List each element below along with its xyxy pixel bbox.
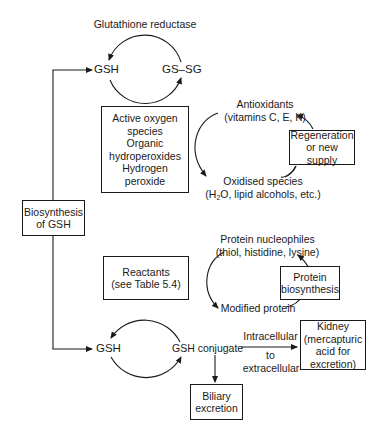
extracellular-label: extracellular [241,362,301,375]
regeneration-line2: or new supply [290,141,354,166]
antioxidants-label-line1: Antioxidants [210,98,320,111]
oxidant-line: Active oxygen [112,112,177,125]
h2o-prefix: (H [205,188,216,200]
oxidant-line: peroxide [125,175,165,188]
reactants-line2: (see Table 5.4) [111,278,180,291]
antioxidants-label-line2: (vitamins C, E, K) [210,111,320,124]
gsh-top-node: GSH [94,63,124,76]
biliary-line1: Biliary [202,390,231,403]
protein-biosynthesis-line1: Protein [293,271,326,284]
protein-biosynthesis-line2: biosynthesis [281,283,339,296]
oxidant-species-box: Active oxygen species Organic hydroperox… [101,106,189,193]
protein-nucleophiles-label: Protein nucleophiles (thiol, histidine, … [205,233,330,258]
oxidant-line: Hydrogen [122,162,168,175]
glutathione-reductase-label: Glutathione reductase [90,18,200,31]
protein-nucleophiles-line1: Protein nucleophiles [205,233,330,246]
biliary-excretion-box: Biliary excretion [190,384,243,420]
protein-nucleophiles-line2: (thiol, histidine, lysine) [205,246,330,259]
biosynthesis-line1: Biosynthesis [24,206,83,219]
oxidant-line: hydroperoxides [109,150,181,163]
biliary-line2: excretion [195,402,238,415]
oxidised-species-label: Oxidised species (H2O, lipid alcohols, e… [198,175,328,200]
to-label: to [243,349,298,362]
intracellular-label: Intracellular [243,330,298,343]
kidney-line: excretion) [310,358,356,371]
biosynthesis-box: Biosynthesis of GSH [22,200,85,236]
kidney-line: Kidney [317,320,349,333]
antioxidants-label: Antioxidants (vitamins C, E, K) [210,98,320,123]
oxidised-species-line1: Oxidised species [198,175,328,188]
reactants-box: Reactants (see Table 5.4) [103,256,189,300]
gssg-node: GS–SG [162,63,202,76]
kidney-line: (mercapturic [304,333,362,346]
modified-protein-label: Modified protein [218,302,298,315]
gsh-bottom-node: GSH [96,342,126,355]
oxidant-line: species [127,125,163,138]
protein-biosynthesis-box: Protein biosynthesis [280,266,340,300]
kidney-box: Kidney (mercapturic acid for excretion) [300,320,366,370]
h2o-suffix: O, lipid alcohols, etc.) [220,188,320,200]
regeneration-line1: Regeneration [290,129,353,142]
biosynthesis-line2: of GSH [36,218,70,231]
kidney-line: acid for [316,345,350,358]
reactants-line1: Reactants [122,266,169,279]
oxidant-line: Organic [127,137,164,150]
oxidised-species-line2: (H2O, lipid alcohols, etc.) [198,188,328,201]
gsh-conjugate-node: GSH conjugate [172,342,252,355]
regeneration-box: Regeneration or new supply [289,130,355,165]
